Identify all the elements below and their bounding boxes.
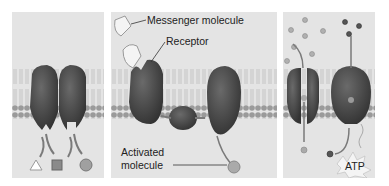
label-atp: ATP <box>345 161 365 172</box>
substrate-square-icon <box>52 160 62 170</box>
substrate-triangle-icon <box>30 160 42 170</box>
pumped-particles <box>343 20 362 37</box>
product-circle-icon <box>80 159 92 171</box>
receptor-protein <box>129 60 163 124</box>
enzyme-left <box>30 65 58 130</box>
label-messenger-molecule: Messenger molecule <box>147 15 244 26</box>
relay-protein <box>169 106 197 130</box>
label-receptor: Receptor <box>166 36 209 47</box>
enzyme-illustration <box>12 12 104 178</box>
label-molecule: molecule <box>121 160 163 171</box>
enzyme-right <box>59 65 86 130</box>
solute-particles <box>285 18 326 64</box>
effector-protein <box>207 66 241 135</box>
label-activated: Activated <box>121 147 164 158</box>
bound-messenger-icon <box>123 45 141 68</box>
transport-illustration <box>283 12 375 178</box>
messenger-molecule-icon <box>115 16 131 36</box>
panel-enzymatic-activity <box>12 12 104 178</box>
pump-protein <box>331 66 371 124</box>
panel-signal-transduction: Messenger molecule Receptor Activated mo… <box>111 12 277 178</box>
panel-transport: ATP <box>283 12 375 178</box>
activated-molecule-icon <box>228 161 240 173</box>
